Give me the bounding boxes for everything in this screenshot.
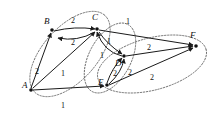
node-dot-A[interactable] — [29, 88, 33, 92]
edge-C-F — [99, 30, 193, 45]
edge-weight-E-D-right: 2 — [128, 68, 132, 77]
node-label-B: B — [44, 16, 50, 26]
node-dot-F[interactable] — [194, 44, 198, 48]
edge-B-C-top — [54, 28, 95, 31]
graph-edges — [31, 28, 193, 90]
node-label-A: A — [21, 80, 28, 90]
edge-A-C — [33, 32, 95, 88]
node-label-F: F — [189, 30, 196, 40]
edge-weight-E-D-left: 2 — [113, 69, 117, 78]
edge-weight-C-B-bot: 2 — [71, 38, 75, 47]
edge-weight-D-F: 2 — [147, 43, 151, 52]
graph-node-dots — [29, 27, 198, 92]
node-label-D: D — [114, 58, 122, 68]
edge-weight-D-C: 1 — [100, 51, 104, 60]
edge-weight-B-C-top: 2 — [71, 16, 75, 25]
node-label-E: E — [97, 77, 104, 87]
node-dot-C[interactable] — [95, 27, 99, 31]
node-dot-B[interactable] — [50, 28, 54, 32]
edge-weight-A-E: 1 — [61, 101, 65, 110]
node-dot-E[interactable] — [105, 83, 109, 87]
graph-figure: A B C D E F 2 2 2 1 1 1 1 1 2 2 2 2 — [0, 0, 222, 113]
edge-weight-A-C: 1 — [61, 69, 65, 78]
graph-canvas: A B C D E F 2 2 2 1 1 1 1 1 2 2 2 2 — [0, 0, 222, 113]
edge-weight-E-F: 2 — [150, 73, 154, 82]
edge-weight-C-F: 1 — [126, 17, 130, 26]
node-label-C: C — [92, 12, 99, 22]
edge-A-B — [31, 33, 51, 88]
cluster-ellipse-abc — [15, 0, 125, 111]
edge-weight-C-D: 1 — [107, 37, 111, 46]
edge-C-B-bot — [58, 32, 95, 39]
edge-weight-A-B: 2 — [35, 67, 39, 76]
node-dot-D[interactable] — [122, 54, 126, 58]
edge-D-F — [126, 46, 193, 56]
